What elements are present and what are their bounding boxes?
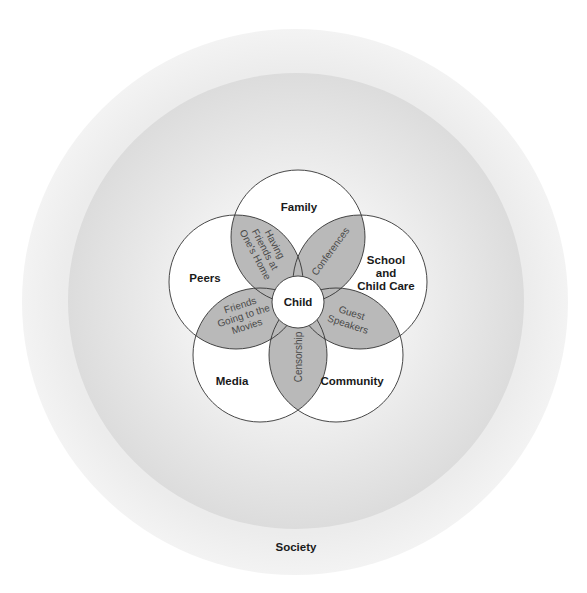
- peers-label: Peers: [189, 272, 220, 284]
- ecological-systems-diagram: Child Family School and Child Care Commu…: [0, 0, 587, 593]
- society-label: Society: [276, 541, 318, 553]
- svg-text:School: School: [367, 254, 405, 266]
- svg-text:and: and: [376, 267, 396, 279]
- media-label: Media: [216, 375, 249, 387]
- child-label: Child: [284, 296, 313, 308]
- svg-text:Censorship: Censorship: [293, 331, 304, 382]
- svg-text:Child Care: Child Care: [357, 280, 415, 292]
- family-label: Family: [281, 201, 318, 213]
- overlap-label-censorship: Censorship: [293, 331, 304, 382]
- community-label: Community: [320, 375, 384, 387]
